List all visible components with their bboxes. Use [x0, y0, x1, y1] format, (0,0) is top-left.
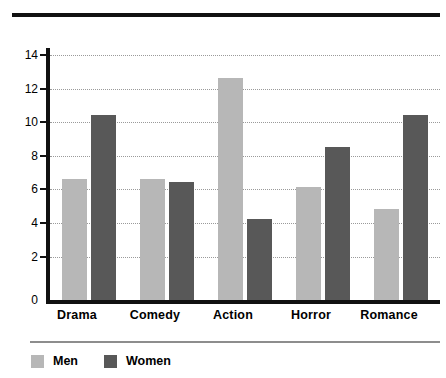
plot-canvas	[50, 48, 440, 300]
y-tick-label-8: 8	[12, 150, 38, 162]
x-label-romance: Romance	[350, 308, 428, 322]
x-axis-line	[46, 300, 440, 304]
legend-item-men[interactable]: Men	[31, 354, 78, 368]
x-label-action: Action	[194, 308, 272, 322]
legend-label-women: Women	[126, 354, 171, 368]
x-axis-category-labels: Drama Comedy Action Horror Romance	[38, 308, 428, 322]
bar-romance-men[interactable]	[374, 209, 399, 300]
y-tick-label-10: 10	[12, 116, 38, 128]
bar-chart-figure: 14 12 10 8 6 4 2 0	[0, 0, 446, 378]
legend-item-women[interactable]: Women	[104, 354, 171, 368]
top-divider-rule	[12, 13, 440, 17]
legend-divider-rule	[30, 341, 440, 343]
bar-comedy-women[interactable]	[169, 182, 194, 300]
legend-label-men: Men	[53, 354, 78, 368]
bar-group-action	[206, 48, 284, 300]
y-axis-tick-labels: 14 12 10 8 6 4 2 0	[12, 30, 38, 308]
bar-comedy-men[interactable]	[140, 179, 165, 300]
bar-action-women[interactable]	[247, 219, 272, 300]
y-tick-label-14: 14	[12, 49, 38, 61]
x-label-comedy: Comedy	[116, 308, 194, 322]
y-tick-label-2: 2	[12, 251, 38, 263]
plot-area: 14 12 10 8 6 4 2 0	[12, 30, 440, 308]
bar-drama-men[interactable]	[62, 179, 87, 300]
y-tick-label-0: 0	[12, 294, 38, 306]
y-tick-label-6: 6	[12, 183, 38, 195]
bar-group-romance	[362, 48, 440, 300]
bar-group-comedy	[128, 48, 206, 300]
bar-romance-women[interactable]	[403, 115, 428, 300]
y-tick-label-12: 12	[12, 83, 38, 95]
bar-horror-women[interactable]	[325, 147, 350, 300]
bar-horror-men[interactable]	[296, 187, 321, 300]
x-label-horror: Horror	[272, 308, 350, 322]
chart-legend: Men Women	[31, 354, 171, 368]
bar-group-horror	[284, 48, 362, 300]
x-label-drama: Drama	[38, 308, 116, 322]
legend-swatch-women-icon	[104, 355, 117, 368]
bar-action-men[interactable]	[218, 78, 243, 300]
bar-group-drama	[50, 48, 128, 300]
bar-drama-women[interactable]	[91, 115, 116, 300]
bar-groups	[50, 48, 440, 300]
y-tick-label-4: 4	[12, 217, 38, 229]
legend-swatch-men-icon	[31, 355, 44, 368]
